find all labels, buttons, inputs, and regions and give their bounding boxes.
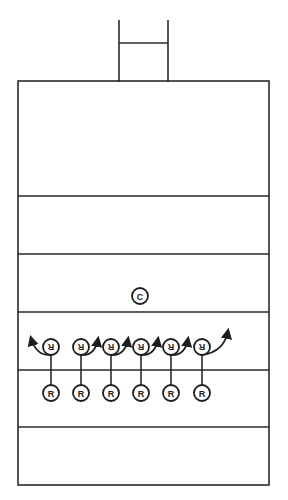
receiver-label: R (137, 342, 144, 352)
bottom-row-players: R R R R R R (43, 385, 210, 401)
receiver-label: R (78, 389, 85, 399)
receiver-label: R (198, 342, 205, 352)
center-player: C (132, 288, 148, 304)
receiver-label: R (167, 342, 174, 352)
play-diagram: C R R R R (0, 0, 288, 500)
receiver-top: R (133, 339, 149, 355)
receiver-bottom: R (43, 385, 59, 401)
receiver-label: R (168, 389, 175, 399)
receiver-top: R (43, 339, 59, 355)
goalpost (119, 20, 168, 82)
receiver-top: R (73, 339, 89, 355)
receiver-top: R (103, 339, 119, 355)
receiver-label: R (77, 342, 84, 352)
center-label: C (137, 292, 144, 302)
receiver-bottom: R (103, 385, 119, 401)
field-boundary (18, 81, 269, 485)
receiver-label: R (107, 342, 114, 352)
receiver-label: R (199, 389, 206, 399)
receiver-bottom: R (133, 385, 149, 401)
receiver-label: R (108, 389, 115, 399)
receiver-top: R (163, 339, 179, 355)
receiver-top: R (194, 339, 210, 355)
receiver-bottom: R (194, 385, 210, 401)
receiver-label: R (47, 342, 54, 352)
receiver-label: R (48, 389, 55, 399)
receiver-label: R (138, 389, 145, 399)
receiver-bottom: R (163, 385, 179, 401)
receiver-bottom: R (73, 385, 89, 401)
